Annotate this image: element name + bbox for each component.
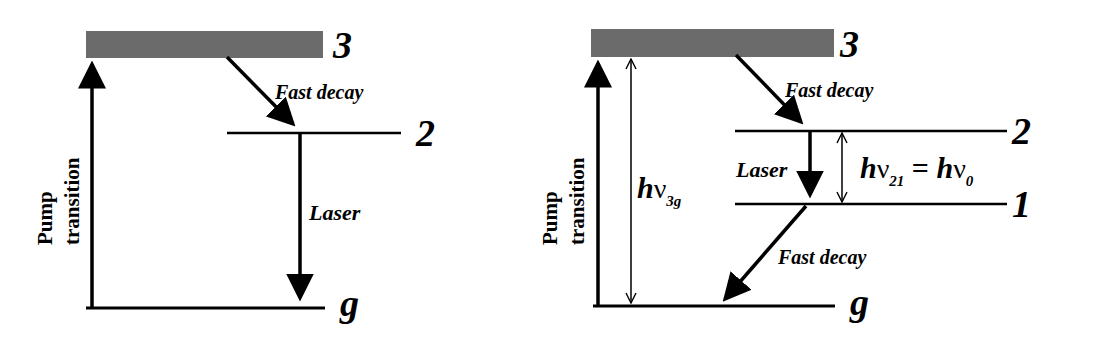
laser-label: Laser bbox=[308, 200, 361, 225]
level-1-label: 1 bbox=[1012, 183, 1031, 225]
level-g-label: g bbox=[339, 282, 359, 324]
h-nu-3g-label: hν3g bbox=[637, 171, 682, 209]
level-3-band bbox=[86, 31, 323, 58]
level-2-label: 2 bbox=[1011, 110, 1031, 152]
level-g-label: g bbox=[849, 281, 869, 323]
level-3-label: 3 bbox=[332, 24, 352, 66]
fast-decay-label: Fast decay bbox=[274, 81, 363, 104]
energy-level-diagrams: 3 2 g Fast decay Laser Pump transition 3… bbox=[0, 0, 1098, 353]
svg-text:Pump: Pump bbox=[538, 191, 562, 245]
left-diagram: 3 2 g Fast decay Laser Pump transition bbox=[33, 24, 435, 324]
right-diagram: 3 2 1 g Fast decay Fast decay Laser hν3g… bbox=[538, 23, 1031, 323]
fast-decay-upper-label: Fast decay bbox=[784, 79, 873, 102]
svg-text:transition: transition bbox=[60, 157, 84, 245]
fast-decay-lower-label: Fast decay bbox=[777, 246, 866, 269]
pump-transition-label: Pump transition bbox=[538, 157, 589, 245]
level-3-label: 3 bbox=[839, 23, 859, 65]
svg-text:Pump: Pump bbox=[33, 191, 57, 245]
laser-label: Laser bbox=[735, 157, 788, 182]
h-nu-21-equals-h-nu-0-label: hν21 = hν0 bbox=[860, 151, 974, 189]
svg-text:transition: transition bbox=[565, 157, 589, 245]
level-2-label: 2 bbox=[415, 112, 435, 154]
pump-transition-label: Pump transition bbox=[33, 157, 84, 245]
level-3-band bbox=[591, 29, 834, 57]
